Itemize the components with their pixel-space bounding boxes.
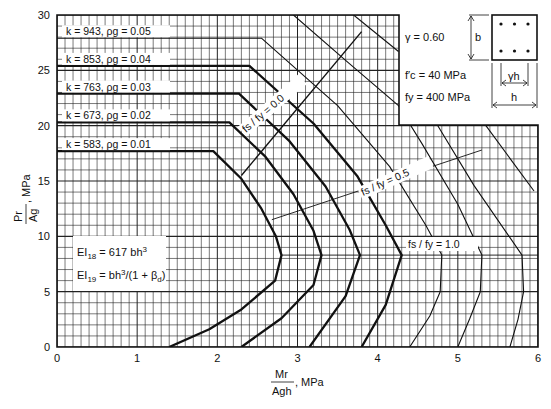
svg-text:γh: γh — [508, 70, 520, 82]
curve-3 — [57, 66, 402, 347]
fy-value: fy = 400 MPa — [405, 91, 471, 103]
curve-label: k = 583, ρg = 0.01 — [66, 138, 151, 150]
svg-text:fs / fy = 0.5: fs / fy = 0.5 — [359, 166, 411, 198]
fc-value: f′c = 40 MPa — [405, 69, 467, 81]
svg-text:h: h — [511, 91, 517, 103]
svg-text:, MPa: , MPa — [295, 376, 325, 388]
curve-labels: k = 943, ρg = 0.05k = 853, ρg = 0.04k = … — [62, 25, 170, 150]
curve-label: k = 673, ρg = 0.02 — [66, 109, 151, 121]
x-tick: 6 — [535, 352, 541, 364]
x-tick: 5 — [455, 352, 461, 364]
y-tick: 25 — [38, 64, 50, 76]
cross-section-diagram: b γh h — [468, 15, 537, 108]
strain-label-10: fs / fy = 1.0 — [406, 237, 478, 251]
curve-label: k = 943, ρg = 0.05 — [66, 25, 151, 37]
y-tick: 0 — [44, 341, 50, 353]
y-tick: 15 — [38, 175, 50, 187]
curve-label: k = 853, ρg = 0.04 — [66, 53, 151, 65]
x-tick: 2 — [214, 352, 220, 364]
stiffness-note: EI18 = 617 bh3 EI19 = bh3/(1 + βd) — [73, 236, 166, 291]
y-axis-label: Pr Ag , MPa — [12, 173, 39, 224]
x-axis-label: Mr Agh , MPa — [271, 368, 325, 397]
svg-text:Agh: Agh — [272, 385, 292, 397]
svg-text:, MPa: , MPa — [20, 173, 32, 203]
y-tick: 20 — [38, 120, 50, 132]
curve-label: k = 763, ρg = 0.03 — [66, 81, 151, 93]
strain-lines — [241, 32, 538, 256]
x-tick: 1 — [134, 352, 140, 364]
y-tick: 30 — [38, 9, 50, 21]
strain-label-0: fs / fy = 0.0 — [238, 74, 307, 136]
svg-text:Pr: Pr — [12, 211, 24, 222]
svg-text:Ag: Ag — [27, 209, 39, 222]
x-tick: 3 — [294, 352, 300, 364]
curve-1 — [57, 122, 322, 347]
svg-text:b: b — [475, 31, 481, 43]
gamma-value: γ = 0.60 — [405, 31, 444, 43]
svg-text:Mr: Mr — [275, 368, 288, 380]
strain-label-05: fs / fy = 0.5 — [357, 156, 434, 200]
interaction-diagram-chart: 0123456051015202530 k = 943, ρg = 0.05k … — [0, 0, 551, 409]
svg-text:fs / fy = 0.0: fs / fy = 0.0 — [239, 91, 286, 134]
curve-2 — [57, 94, 360, 347]
y-tick: 5 — [44, 286, 50, 298]
y-tick: 10 — [38, 230, 50, 242]
x-tick: 0 — [54, 352, 60, 364]
svg-text:fs / fy = 1.0: fs / fy = 1.0 — [408, 238, 460, 250]
x-tick: 4 — [375, 352, 381, 364]
